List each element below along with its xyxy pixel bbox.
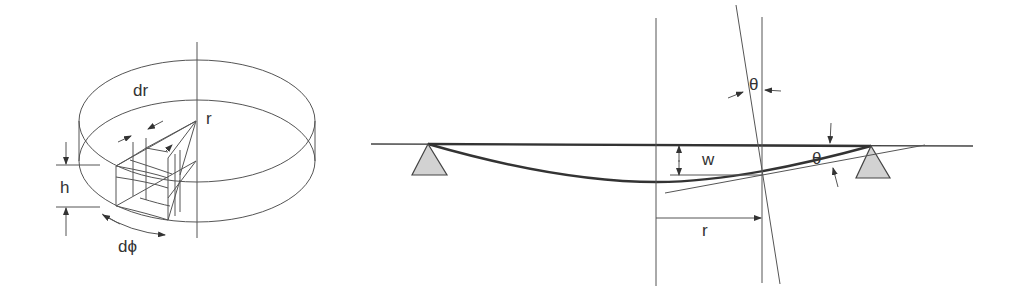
label-theta-top: θ [749, 75, 758, 94]
label-r-beam: r [702, 221, 708, 240]
cylinder-figure: dr r h dϕ [56, 42, 315, 256]
diagram-canvas: dr r h dϕ θ [0, 0, 1024, 302]
right-support [856, 146, 890, 178]
theta-right-arrow-bottom [833, 168, 838, 187]
radial-arrow [165, 145, 172, 152]
dphi-arc-start [103, 215, 120, 224]
label-w: w [701, 150, 715, 169]
dr-arrow-left [118, 136, 131, 142]
label-theta-right: θ [812, 149, 821, 168]
label-dr: dr [133, 81, 148, 100]
deflection-figure: θ w θ r [371, 5, 973, 286]
deflected-plate [428, 144, 871, 182]
label-h: h [60, 178, 69, 197]
theta-top-arrow-left [728, 92, 743, 98]
dphi-arc-end [102, 214, 165, 235]
theta-top-arrow-right [765, 90, 781, 91]
theta-right-arrow-top [830, 123, 831, 143]
undeformed-plate [428, 144, 871, 146]
label-dphi: dϕ [118, 237, 137, 256]
dr-arrow-right [148, 121, 163, 129]
label-r-cylinder: r [206, 109, 212, 128]
